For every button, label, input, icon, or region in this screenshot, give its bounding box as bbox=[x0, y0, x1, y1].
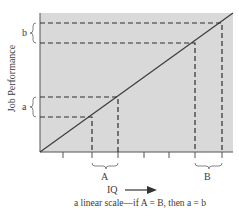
label-A: A bbox=[101, 171, 108, 182]
x-ticks bbox=[63, 152, 222, 158]
x-axis-arrow bbox=[125, 186, 157, 194]
label-b: b bbox=[22, 27, 27, 38]
diagram-canvas bbox=[0, 0, 239, 220]
brace-A bbox=[92, 163, 118, 169]
x-axis-label: IQ bbox=[107, 184, 118, 195]
label-B: B bbox=[204, 171, 211, 182]
brace-a bbox=[30, 97, 36, 117]
label-a: a bbox=[22, 101, 26, 112]
caption: a linear scale—if A = B, then a = b bbox=[74, 198, 206, 208]
brace-B bbox=[195, 163, 222, 169]
brace-b bbox=[30, 23, 36, 43]
y-axis-label: Job Performance bbox=[6, 44, 17, 114]
